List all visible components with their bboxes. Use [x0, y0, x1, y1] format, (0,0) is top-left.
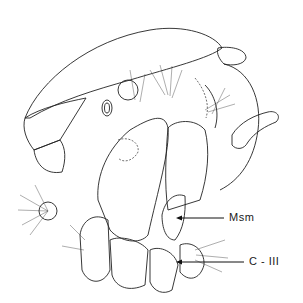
- label-c-iii: C - III: [249, 255, 279, 267]
- label-msm: Msm: [229, 211, 254, 223]
- wing-base: [195, 78, 217, 128]
- knob: [39, 80, 138, 220]
- sternopleuron: [166, 122, 208, 211]
- scutellum: [217, 47, 246, 65]
- scutum: [25, 28, 222, 118]
- bristles: [18, 65, 235, 272]
- spiracle: [102, 100, 112, 116]
- postnotum: [220, 64, 259, 190]
- coxae: [80, 217, 204, 293]
- anterior-lobe: [24, 98, 86, 173]
